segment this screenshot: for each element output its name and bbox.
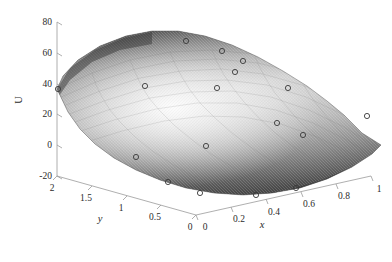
y-tick-label-1p5: 1.5	[80, 193, 92, 203]
data-point-marker	[197, 190, 202, 195]
surface-mesh	[40, 20, 390, 210]
z-tick-0	[57, 145, 62, 148]
y-tick-label-1: 1	[119, 203, 124, 213]
y-tick-0p5	[157, 205, 161, 209]
x-tick-label-0p8: 0.8	[338, 191, 350, 201]
data-point-marker	[364, 113, 369, 118]
y-tick-1p5	[88, 186, 92, 190]
x-tick-label-0p6: 0.6	[303, 199, 315, 209]
x-tick-0	[196, 215, 198, 220]
y-tick-2	[53, 176, 57, 180]
x-tick-label-0p4: 0.4	[268, 207, 280, 217]
z-tick-80	[57, 22, 62, 25]
x-tick-1	[371, 176, 373, 181]
z-tick-label-80: 80	[43, 17, 53, 27]
x-tick-label-0: 0	[203, 222, 208, 232]
z-tick-label-20: 20	[43, 109, 53, 119]
surface-shading	[40, 20, 390, 210]
z-tick-label-0: 0	[47, 140, 52, 150]
x-axis-title: x	[259, 219, 265, 230]
z-tick-label-60: 60	[43, 48, 53, 58]
y-tick-label-2: 2	[50, 183, 55, 193]
z-tick-60	[57, 53, 62, 56]
y-axis-title: y	[97, 213, 103, 224]
x-tick-label-1: 1	[377, 184, 382, 194]
x-tick-0p4	[266, 199, 268, 204]
x-tick-0p6	[301, 192, 303, 197]
z-tick-label-40: 40	[43, 79, 53, 89]
x-tick-0p8	[336, 184, 338, 189]
z-tick-label-neg20: -20	[39, 171, 52, 181]
z-axis-title: U	[13, 96, 24, 104]
y-tick-label-0p5: 0.5	[149, 212, 161, 222]
surface-plot-figure: 80 60 40 20 0 -20 U 2 1.5 1 0.5 0 y	[0, 0, 392, 262]
z-tick-20	[57, 114, 62, 117]
y-tick-0	[192, 215, 196, 219]
y-tick-label-0: 0	[188, 222, 193, 232]
plot-canvas: 80 60 40 20 0 -20 U 2 1.5 1 0.5 0 y	[0, 0, 392, 262]
mesh-texture	[40, 20, 390, 210]
y-tick-1	[123, 196, 127, 200]
x-tick-0p2	[231, 207, 233, 212]
x-tick-label-0p2: 0.2	[233, 214, 245, 224]
z-axis: 80 60 40 20 0 -20 U	[13, 17, 62, 181]
